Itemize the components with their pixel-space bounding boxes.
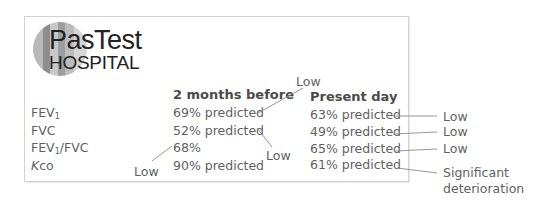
annotation-before-ratio-low: Low: [134, 165, 159, 179]
value-before-fev1: 69% predicted: [173, 106, 264, 120]
annotation-before-fvc-low: Low: [266, 149, 291, 163]
value-present-kco: 61% predicted: [310, 158, 401, 172]
value-before-fvc: 52% predicted: [173, 124, 264, 138]
value-before-ratio: 68%: [173, 141, 201, 155]
annotation-present-kco-line1: Significant: [443, 166, 509, 180]
annotation-before-fev1-low: Low: [296, 75, 321, 89]
row-label-fev1-fvc: FEV1/FVC: [31, 141, 88, 155]
annotation-present-ratio-low: Low: [443, 142, 468, 156]
column-header-before: 2 months before: [173, 88, 294, 102]
row-label-kco: Kco: [31, 159, 54, 173]
value-present-ratio: 65% predicted: [310, 142, 401, 156]
annotation-present-kco-line2: deterioration: [443, 182, 524, 196]
hospital-logo: PasTest HOSPITAL: [33, 22, 163, 78]
logo-text-pastest: PasTest: [49, 27, 142, 54]
column-header-present: Present day: [310, 90, 397, 104]
value-present-fev1: 63% predicted: [310, 108, 401, 122]
annotation-present-fvc-low: Low: [443, 125, 468, 139]
value-before-kco: 90% predicted: [173, 159, 264, 173]
annotation-present-fev1-low: Low: [443, 110, 468, 124]
logo-text-hospital: HOSPITAL: [49, 53, 139, 73]
value-present-fvc: 49% predicted: [310, 125, 401, 139]
row-label-fev1: FEV1: [31, 106, 60, 120]
row-label-fvc: FVC: [31, 124, 55, 138]
